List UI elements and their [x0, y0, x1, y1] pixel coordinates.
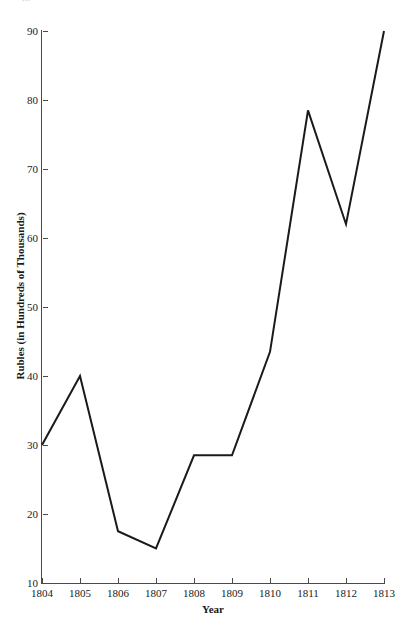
x-tick-label-1807: 1807 [136, 587, 176, 599]
x-tick-1806 [118, 578, 119, 583]
x-tick-1805 [80, 578, 81, 583]
x-tick-1809 [232, 578, 233, 583]
y-tick-80 [43, 100, 48, 101]
x-tick-label-1810: 1810 [250, 587, 290, 599]
y-tick-20 [43, 514, 48, 515]
x-tick-1804 [42, 578, 43, 583]
y-tick-60 [43, 238, 48, 239]
series-polyline [42, 31, 384, 549]
x-tick-1807 [156, 578, 157, 583]
x-tick-label-1813: 1813 [364, 587, 404, 599]
x-tick-label-1811: 1811 [288, 587, 328, 599]
x-tick-1812 [346, 578, 347, 583]
y-axis-line [41, 30, 42, 584]
x-tick-label-1808: 1808 [174, 587, 214, 599]
y-tick-90 [43, 31, 48, 32]
x-tick-1813 [384, 578, 385, 583]
y-tick-10 [43, 583, 48, 584]
y-tick-label-90: 90 [12, 26, 38, 37]
x-axis-line [41, 583, 385, 584]
x-tick-label-1806: 1806 [98, 587, 138, 599]
line-series-svg [0, 0, 409, 620]
x-tick-label-1804: 1804 [22, 587, 62, 599]
y-tick-label-80: 80 [12, 95, 38, 106]
y-axis-title: Rubles (in Hundreds of Thousands) [14, 156, 26, 436]
x-tick-1811 [308, 578, 309, 583]
x-tick-label-1809: 1809 [212, 587, 252, 599]
caption-text: ... [22, 0, 30, 3]
x-tick-label-1812: 1812 [326, 587, 366, 599]
y-tick-label-30: 30 [12, 440, 38, 451]
cut-off-caption: ... [0, 0, 409, 9]
y-tick-label-20: 20 [12, 509, 38, 520]
x-tick-1810 [270, 578, 271, 583]
y-tick-40 [43, 376, 48, 377]
y-tick-70 [43, 169, 48, 170]
y-tick-50 [43, 307, 48, 308]
x-tick-1808 [194, 578, 195, 583]
chart-figure: ... 102030405060708090 18041805180618071… [0, 0, 409, 620]
x-axis-title: Year [41, 603, 385, 615]
y-tick-30 [43, 445, 48, 446]
x-tick-label-1805: 1805 [60, 587, 100, 599]
